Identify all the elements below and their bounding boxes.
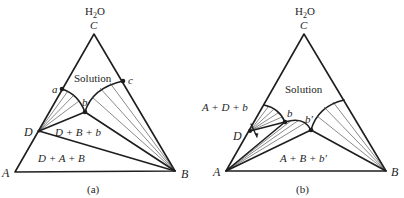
curve-bprime-right: [311, 100, 344, 130]
label-a: a: [52, 83, 58, 95]
apex-formula-a: H2O: [85, 5, 105, 20]
label-B-panelb: B: [391, 165, 399, 179]
region-a-b-bprime: A + B + b′: [279, 152, 328, 164]
point-b: [83, 110, 88, 115]
vertex-c-label-a: C: [90, 19, 98, 31]
line-bprime-B: [311, 130, 386, 171]
region-d-a-b: D + A + B: [37, 152, 85, 164]
point-D: [37, 129, 40, 132]
apex-formula-b: H2O: [295, 5, 315, 20]
label-bprime: b′: [305, 113, 314, 125]
point-b-panelb: [283, 120, 288, 125]
curve-upper-b: [264, 105, 285, 122]
point-bprime: [309, 128, 314, 133]
panel-b: H2O C: [201, 5, 399, 196]
label-A: A: [1, 166, 10, 180]
label-b: b: [82, 96, 88, 108]
label-B: B: [181, 167, 189, 181]
point-c: [121, 79, 126, 84]
label-D: D: [23, 125, 33, 139]
region-solution-b: Solution: [285, 83, 323, 95]
region-a-d-b: A + D + b: [201, 101, 248, 113]
caption-b: (b): [296, 183, 309, 196]
label-D-panelb: D: [232, 129, 242, 143]
point-D-panelb: [248, 129, 252, 133]
point-a: [60, 87, 65, 92]
region-solution-a: Solution: [74, 72, 112, 84]
label-A-panelb: A: [212, 165, 221, 179]
panel-a: H2O C a b c D A B: [1, 5, 189, 196]
vertex-c-label-b: C: [300, 19, 308, 31]
label-b-panelb: b: [287, 107, 293, 119]
label-c: c: [128, 74, 133, 86]
tie-lines-d-a: [39, 91, 79, 131]
caption-a: (a): [87, 183, 100, 196]
tie-lines-b-a: [92, 83, 175, 171]
region-d-b-b: D + B + b: [54, 126, 102, 138]
phase-diagrams: H2O C a b c D A B: [0, 0, 404, 198]
